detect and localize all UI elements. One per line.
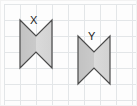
shapes-layer xyxy=(0,0,137,106)
shape-y-polygon[interactable] xyxy=(78,36,110,84)
shape-x-label: X xyxy=(30,15,37,26)
geometry-figure: X Y xyxy=(0,0,137,106)
shape-y-label: Y xyxy=(88,31,95,42)
shape-x-polygon[interactable] xyxy=(20,20,52,68)
